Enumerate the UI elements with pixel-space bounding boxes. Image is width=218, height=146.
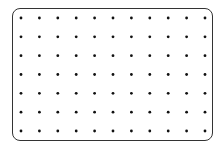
grid-dot [148,17,151,20]
grid-dot [38,130,41,133]
grid-dot [56,111,59,114]
grid-dot [20,130,23,133]
grid-dot [20,17,23,20]
grid-dot [93,73,96,76]
grid-dot [167,111,170,114]
grid-dot [56,35,59,38]
grid-dot [185,92,188,95]
grid-dot [185,35,188,38]
grid-dot [148,130,151,133]
grid-dot [204,73,207,76]
grid-dot [204,54,207,57]
grid-dot [130,17,133,20]
grid-dot [56,73,59,76]
grid-dot [130,111,133,114]
grid-dot [38,92,41,95]
grid-dot [75,130,78,133]
grid-dot [38,111,41,114]
grid-dot [112,17,115,20]
grid-dot [130,54,133,57]
grid-dot [75,54,78,57]
grid-dot [148,35,151,38]
grid-dot [20,92,23,95]
grid-dot [148,54,151,57]
grid-dot [112,92,115,95]
grid-dot [38,54,41,57]
grid-dot [93,35,96,38]
grid-dot [167,92,170,95]
grid-dot [75,111,78,114]
dot-grid [0,0,218,146]
grid-dot [148,73,151,76]
grid-dot [112,73,115,76]
grid-dot [75,35,78,38]
grid-dot [75,73,78,76]
grid-dot [38,73,41,76]
grid-dot [185,130,188,133]
grid-dot [185,54,188,57]
grid-dot [20,111,23,114]
grid-dot [93,17,96,20]
grid-dot [112,130,115,133]
grid-dot [112,54,115,57]
grid-dot [93,54,96,57]
grid-dot [56,92,59,95]
grid-dot [20,54,23,57]
grid-dot [56,130,59,133]
grid-dot [185,73,188,76]
grid-dot [185,111,188,114]
grid-dot [204,92,207,95]
grid-dot [204,17,207,20]
grid-dot [20,73,23,76]
grid-dot [167,130,170,133]
grid-dot [148,111,151,114]
grid-dot [75,92,78,95]
grid-dot [167,73,170,76]
grid-dot [148,92,151,95]
grid-dot [75,17,78,20]
grid-dot [130,73,133,76]
grid-dot [204,111,207,114]
grid-dot [56,54,59,57]
grid-dot [204,130,207,133]
grid-dot [93,111,96,114]
grid-dot [167,35,170,38]
grid-dot [167,54,170,57]
grid-dot [185,17,188,20]
grid-dot [20,35,23,38]
grid-dot [130,130,133,133]
grid-dot [167,17,170,20]
grid-dot [38,35,41,38]
grid-dot [204,35,207,38]
grid-dot [112,35,115,38]
grid-dot [38,17,41,20]
grid-dot [93,130,96,133]
grid-dot [93,92,96,95]
grid-dot [112,111,115,114]
grid-dot [130,35,133,38]
grid-dot [130,92,133,95]
grid-dot [56,17,59,20]
